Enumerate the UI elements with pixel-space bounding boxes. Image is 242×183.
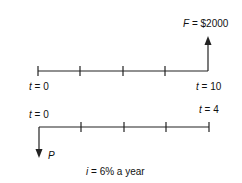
future-value-text: = $2000	[189, 18, 228, 29]
time-text: = 4	[202, 104, 219, 115]
top-timeline	[38, 44, 208, 76]
top-end-label: t = 10	[196, 82, 221, 92]
arrow-down-icon	[36, 149, 43, 158]
time-text: = 10	[199, 81, 222, 92]
bottom-start-label: t = 0	[29, 110, 49, 120]
bottom-end-label: t = 4	[199, 105, 219, 115]
top-start-label: t = 0	[29, 82, 49, 92]
time-text: = 0	[32, 81, 49, 92]
bottom-timeline	[39, 122, 209, 150]
arrow-up-icon	[205, 36, 212, 45]
time-text: = 0	[32, 109, 49, 120]
present-value-var: P	[48, 150, 55, 161]
interest-text: = 6% a year	[88, 166, 144, 177]
interest-rate-label: i = 6% a year	[86, 167, 145, 177]
present-value-label: P	[48, 151, 55, 161]
future-value-label: F = $2000	[183, 19, 228, 29]
